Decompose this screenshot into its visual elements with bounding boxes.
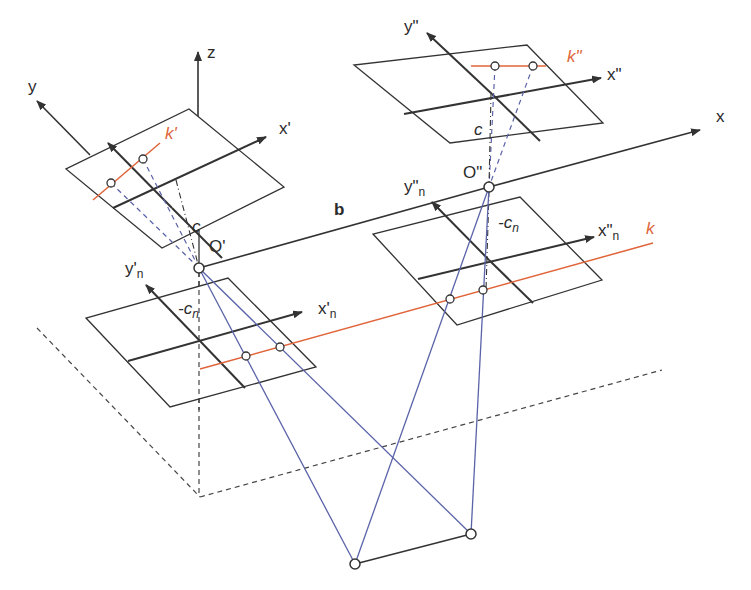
- label-x-n-double: x"n: [598, 222, 619, 242]
- label-k-prime: k': [165, 125, 177, 142]
- label-o-prime: O': [209, 238, 225, 255]
- label-x-double: x": [607, 66, 622, 83]
- object-segment: [355, 534, 471, 564]
- label-x-prime: x': [279, 120, 291, 137]
- epipolar-geometry-diagram: z y x' k' c O' y'n -cn x'n b x y" k" x" …: [0, 0, 751, 590]
- label-o-double: O": [463, 164, 482, 181]
- label-minus-cn-left: -cn: [178, 300, 199, 320]
- label-x: x: [716, 108, 725, 125]
- image-plane-left-positive: [37, 101, 284, 258]
- label-y-n-double: y"n: [404, 178, 425, 198]
- object-point-1: [350, 559, 360, 569]
- image-plane-left-negative: [86, 278, 316, 407]
- label-z: z: [207, 44, 216, 61]
- x-axis: [489, 130, 700, 187]
- label-c-right: c: [474, 121, 483, 138]
- label-k-double: k": [567, 48, 582, 65]
- label-y-n-prime: y'n: [125, 260, 143, 280]
- diagram-canvas: [0, 0, 751, 590]
- projection-center-o-prime: [194, 263, 204, 273]
- label-baseline-b: b: [334, 201, 344, 218]
- label-k: k: [646, 220, 655, 237]
- label-c-left: c: [192, 218, 201, 235]
- label-y-double: y": [404, 18, 419, 35]
- label-minus-cn-right: -cn: [498, 214, 519, 234]
- label-y: y: [28, 78, 37, 95]
- object-point-2: [466, 529, 476, 539]
- projection-center-o-double: [484, 182, 494, 192]
- label-x-n-prime: x'n: [318, 300, 336, 320]
